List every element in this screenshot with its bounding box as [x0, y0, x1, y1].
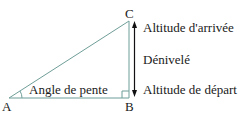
vertex-b-label: B	[125, 100, 134, 113]
elevation-gain-label: Dénivelé	[143, 53, 190, 66]
elevation-arrow	[132, 21, 137, 97]
departure-altitude-label: Altitude de départ	[143, 83, 237, 96]
arrival-altitude-label: Altitude d'arrivée	[143, 21, 234, 34]
angle-arc	[20, 91, 22, 98]
vertex-a-label: A	[2, 100, 11, 113]
vertex-c-label: C	[125, 7, 134, 20]
right-angle-marker	[122, 91, 129, 98]
angle-label: Angle de pente	[29, 83, 108, 96]
